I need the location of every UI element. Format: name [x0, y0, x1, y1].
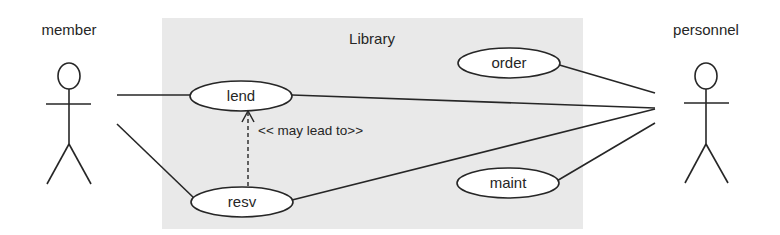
stick-figure-icon [46, 63, 91, 184]
use-case-lend[interactable]: lend [190, 81, 292, 111]
use-case-order[interactable]: order [458, 48, 560, 78]
use-case-label: order [491, 54, 526, 71]
use-case-label: lend [227, 87, 255, 104]
stick-figure-icon [684, 63, 729, 183]
use-case-resv[interactable]: resv [191, 187, 293, 217]
dependency-label: << may lead to>> [258, 123, 363, 138]
use-case-label: resv [228, 193, 257, 210]
actor-label: personnel [673, 21, 739, 38]
use-case-label: maint [490, 174, 528, 191]
system-label: Library [349, 30, 395, 47]
actor-personnel[interactable]: personnel [673, 21, 739, 183]
use-case-maint[interactable]: maint [457, 168, 559, 198]
actor-member[interactable]: member [41, 21, 96, 184]
actor-label: member [41, 21, 96, 38]
use-case-diagram: Library << may lead to>> lend resv [0, 0, 780, 235]
